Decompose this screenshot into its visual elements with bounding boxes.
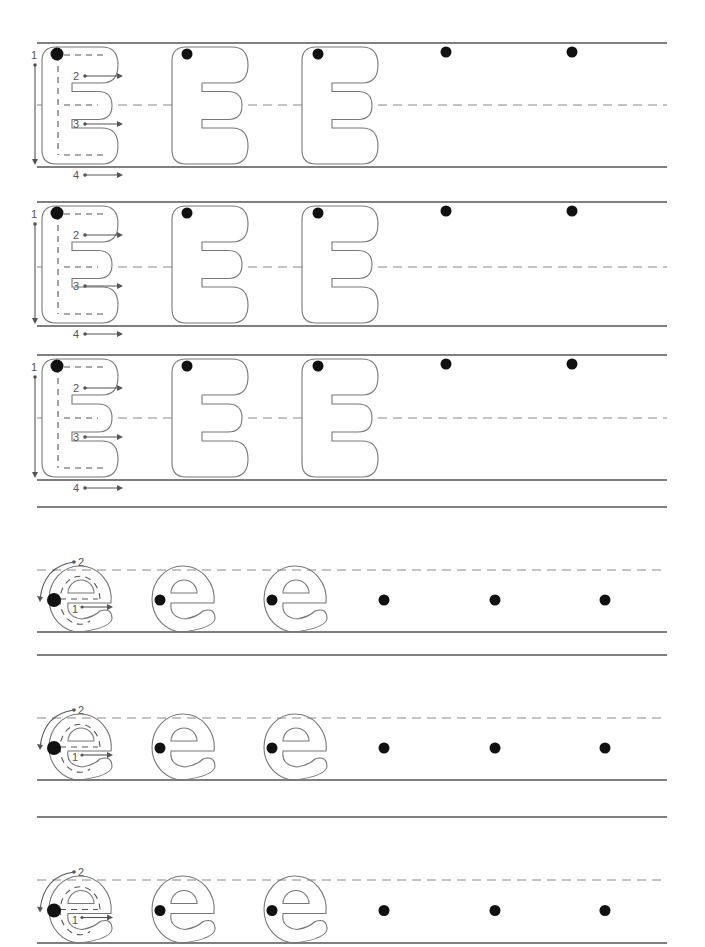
start-dot (490, 743, 501, 754)
start-dot (182, 208, 193, 219)
arrowhead-icon (107, 752, 113, 758)
letter-E-outline (172, 206, 248, 323)
start-dot (51, 360, 64, 373)
stroke-number: 1 (72, 603, 78, 615)
uppercase-practice-row: 1234 (31, 202, 667, 340)
start-dot (47, 741, 61, 755)
handwriting-worksheet: 123412341234121212 (0, 0, 705, 947)
start-dot (490, 595, 501, 606)
arrowhead-icon (117, 385, 123, 391)
arrowhead-icon (37, 596, 43, 602)
arrowhead-icon (37, 907, 43, 913)
start-dot (267, 743, 278, 754)
stroke-guide-2 (60, 724, 100, 772)
start-dot (567, 47, 578, 58)
start-dot (155, 905, 166, 916)
arrowhead-icon (117, 485, 123, 491)
start-dot (313, 208, 324, 219)
start-dot (379, 595, 390, 606)
start-dot (600, 743, 611, 754)
lowercase-practice-row: 12 (37, 556, 667, 655)
start-dot (313, 49, 324, 60)
stroke-number: 4 (73, 169, 79, 181)
arrowhead-icon (117, 73, 123, 79)
lowercase-practice-row: 12 (37, 704, 667, 817)
start-dot (51, 207, 64, 220)
stroke-guide-2 (60, 576, 100, 624)
arrowhead-icon (32, 318, 38, 324)
stroke-number: 3 (73, 280, 79, 292)
stroke-number: 2 (78, 556, 84, 568)
letter-e-counter (68, 891, 94, 904)
start-dot (51, 48, 64, 61)
arrowhead-icon (117, 172, 123, 178)
start-dot (182, 361, 193, 372)
letter-e-counter (68, 728, 94, 741)
arrowhead-icon (32, 472, 38, 478)
start-dot (379, 743, 390, 754)
start-dot (267, 905, 278, 916)
start-dot (47, 904, 61, 918)
letter-e-counter (171, 891, 197, 904)
stroke-number: 1 (31, 208, 37, 220)
letter-e-counter (283, 728, 309, 741)
letter-E-outline (302, 206, 378, 323)
stroke-number: 1 (31, 361, 37, 373)
start-dot (267, 595, 278, 606)
letter-E-outline (302, 47, 378, 164)
start-dot (313, 361, 324, 372)
arrowhead-icon (107, 604, 113, 610)
start-dot (600, 595, 611, 606)
letter-E-outline (302, 359, 378, 477)
letter-e-counter (283, 891, 309, 904)
stroke-number: 2 (73, 229, 79, 241)
stroke-number: 3 (73, 118, 79, 130)
stroke-number: 2 (73, 70, 79, 82)
stroke-number: 4 (73, 482, 79, 494)
start-dot (441, 47, 452, 58)
stroke-number: 2 (78, 704, 84, 716)
letter-e-counter (171, 728, 197, 741)
start-dot (182, 49, 193, 60)
start-dot (567, 206, 578, 217)
stroke-number: 2 (78, 866, 84, 878)
stroke-number: 4 (73, 328, 79, 340)
letter-E-outline (172, 47, 248, 164)
arrowhead-icon (117, 232, 123, 238)
stroke-number: 2 (73, 382, 79, 394)
stroke-number: 1 (72, 914, 78, 926)
start-dot (490, 905, 501, 916)
start-dot (600, 905, 611, 916)
arrowhead-icon (107, 915, 113, 921)
start-dot (379, 905, 390, 916)
start-dot (155, 743, 166, 754)
arrowhead-icon (117, 121, 123, 127)
arrowhead-icon (117, 283, 123, 289)
arrowhead-icon (117, 434, 123, 440)
stroke-guide-2 (60, 887, 100, 935)
uppercase-practice-row: 1234 (31, 43, 667, 181)
uppercase-practice-row: 1234 (31, 355, 667, 494)
start-dot (155, 595, 166, 606)
letter-E-outline (172, 359, 248, 477)
letter-e-counter (171, 580, 197, 593)
stroke-number: 1 (72, 751, 78, 763)
lowercase-practice-row: 12 (37, 866, 667, 943)
stroke-number: 1 (31, 49, 37, 61)
arrowhead-icon (32, 159, 38, 165)
letter-E-outline (42, 206, 118, 323)
letter-e-counter (283, 580, 309, 593)
start-dot (47, 593, 61, 607)
start-dot (441, 206, 452, 217)
arrowhead-icon (37, 744, 43, 750)
start-dot (441, 359, 452, 370)
start-dot (567, 359, 578, 370)
stroke-number: 3 (73, 431, 79, 443)
arrowhead-icon (117, 331, 123, 337)
letter-e-counter (68, 580, 94, 593)
